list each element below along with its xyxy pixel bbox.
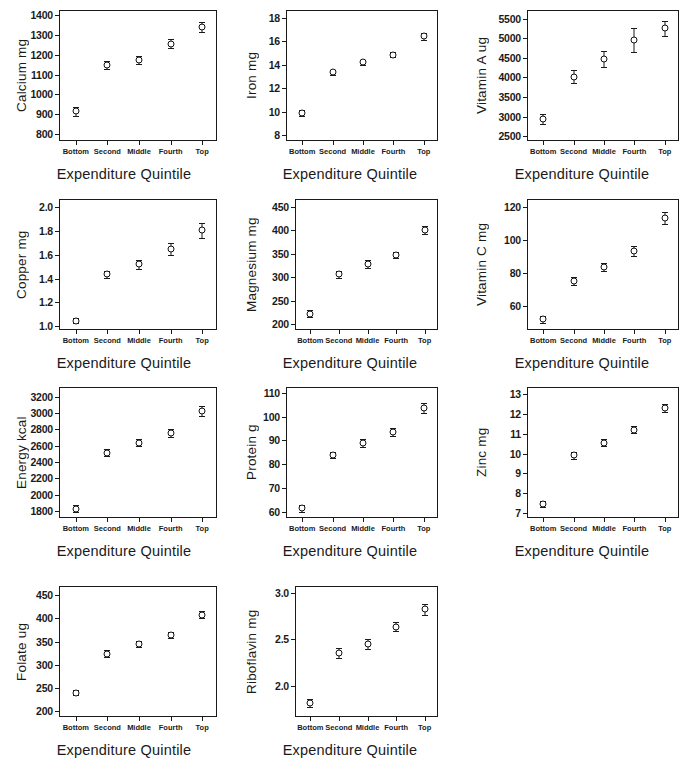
error-bar-cap-lower	[73, 116, 79, 117]
y-tick-label-copper-1: 1.2	[39, 296, 53, 308]
x-tick-label-zinc-1: Second	[560, 524, 587, 533]
data-point-magnesium-middle	[358, 260, 378, 267]
error-bar-cap-lower	[422, 615, 428, 616]
y-tick-folate-2	[55, 665, 60, 666]
y-tick-label-vitamin-a-2: 3500	[498, 91, 521, 103]
marker-circle	[199, 408, 206, 415]
y-axis-label-calcium: Calcium mg	[14, 10, 29, 141]
error-bar-cap-lower	[73, 512, 79, 513]
y-tick-label-riboflavin-2: 3.0	[275, 587, 289, 599]
y-tick-label-copper-0: 1.0	[39, 320, 53, 332]
marker-circle	[540, 501, 547, 508]
x-tick-vitamin-a-4	[665, 140, 666, 145]
data-point-protein-second	[323, 452, 343, 458]
y-tick-energy-7	[55, 397, 60, 398]
marker-circle	[601, 264, 608, 271]
y-axis-label-copper: Copper mg	[14, 199, 29, 330]
x-tick-label-folate-4: Top	[196, 723, 209, 732]
error-bar-cap-lower	[168, 48, 174, 49]
x-tick-iron-0	[302, 140, 303, 145]
plot-area-iron: 81012141618BottomSecondMiddleFourthTop	[286, 10, 438, 141]
data-point-riboflavin-second	[329, 648, 349, 657]
x-tick-magnesium-1	[339, 329, 340, 334]
error-bar-cap-lower	[631, 52, 637, 53]
y-tick-label-iron-1: 10	[269, 106, 280, 118]
x-tick-calcium-4	[202, 140, 203, 145]
x-tick-label-protein-0: Bottom	[289, 524, 315, 533]
marker-circle	[364, 261, 371, 268]
error-bar-cap-lower	[601, 67, 607, 68]
data-point-iron-second	[323, 70, 343, 75]
x-tick-vitamin-a-1	[574, 140, 575, 145]
x-tick-label-energy-0: Bottom	[63, 524, 89, 533]
marker-circle	[421, 226, 428, 233]
y-tick-label-zinc-4: 11	[510, 428, 521, 440]
x-tick-label-folate-0: Bottom	[63, 723, 89, 732]
marker-circle	[104, 271, 111, 278]
x-tick-label-protein-1: Second	[319, 524, 346, 533]
y-tick-label-copper-4: 1.8	[39, 225, 53, 237]
error-bar-cap-upper	[662, 212, 668, 213]
marker-circle	[335, 271, 342, 278]
y-tick-vitamin-c-1	[523, 273, 528, 274]
data-point-vitamin-c-fourth	[624, 246, 644, 256]
y-tick-label-protein-3: 90	[269, 434, 280, 446]
error-bar-cap-lower	[631, 256, 637, 257]
y-tick-label-protein-1: 70	[269, 482, 280, 494]
data-point-iron-bottom	[292, 110, 312, 116]
x-tick-protein-4	[424, 517, 425, 522]
marker-circle	[167, 40, 174, 47]
data-point-calcium-second	[97, 61, 117, 68]
x-tick-label-protein-2: Middle	[351, 524, 375, 533]
marker-circle	[360, 439, 367, 446]
y-tick-label-energy-1: 2000	[30, 489, 53, 501]
marker-circle	[104, 61, 111, 68]
marker-circle	[631, 36, 638, 43]
marker-circle	[167, 632, 174, 639]
x-tick-vitamin-c-3	[634, 329, 635, 334]
data-point-zinc-middle	[594, 439, 614, 446]
x-tick-folate-2	[139, 716, 140, 721]
x-tick-label-zinc-2: Middle	[592, 524, 616, 533]
chart-panel-protein: Protein gExpenditure Quintile60708090100…	[232, 377, 460, 564]
error-bar-cap-lower	[421, 40, 427, 41]
data-point-riboflavin-middle	[358, 639, 378, 648]
y-tick-label-calcium-5: 1300	[30, 29, 53, 41]
y-tick-label-folate-3: 350	[36, 636, 53, 648]
data-point-folate-fourth	[161, 632, 181, 638]
y-tick-riboflavin-2	[291, 593, 296, 594]
y-tick-label-vitamin-a-6: 5500	[498, 13, 521, 25]
x-axis-label-folate: Expenditure Quintile	[24, 742, 224, 758]
data-point-iron-top	[414, 33, 434, 40]
chart-panel-calcium: Calcium mgExpenditure Quintile8009001000…	[0, 0, 232, 189]
x-tick-vitamin-c-2	[604, 329, 605, 334]
x-tick-calcium-0	[76, 140, 77, 145]
x-tick-calcium-1	[107, 140, 108, 145]
error-bar-cap-lower	[421, 413, 427, 414]
y-tick-label-magnesium-0: 200	[272, 318, 289, 330]
y-tick-label-iron-0: 8	[274, 129, 280, 141]
x-tick-label-riboflavin-3: Fourth	[384, 723, 408, 732]
x-tick-label-calcium-0: Bottom	[63, 147, 89, 156]
x-tick-label-vitamin-a-3: Fourth	[623, 147, 647, 156]
x-tick-vitamin-a-3	[634, 140, 635, 145]
data-point-vitamin-a-top	[655, 21, 675, 36]
y-tick-label-folate-4: 400	[36, 612, 53, 624]
x-tick-label-iron-4: Top	[417, 147, 430, 156]
x-tick-riboflavin-4	[425, 716, 426, 721]
marker-circle	[420, 33, 427, 40]
x-tick-zinc-1	[574, 517, 575, 522]
error-bar-cap-lower	[360, 447, 366, 448]
y-tick-label-energy-3: 2400	[30, 456, 53, 468]
y-tick-label-vitamin-c-1: 80	[510, 267, 521, 279]
marker-circle	[661, 404, 668, 411]
x-tick-label-vitamin-a-1: Second	[560, 147, 587, 156]
error-bar-cap-lower	[631, 433, 637, 434]
y-tick-vitamin-c-2	[523, 240, 528, 241]
chart-panel-vitamin-a: Vitamin A ugExpenditure Quintile25003000…	[460, 0, 695, 189]
y-tick-label-vitamin-a-0: 2500	[498, 130, 521, 142]
y-tick-magnesium-3	[291, 254, 296, 255]
error-bar-cap-lower	[136, 64, 142, 65]
error-bar-cap-upper	[422, 604, 428, 605]
y-tick-vitamin-a-3	[523, 77, 528, 78]
